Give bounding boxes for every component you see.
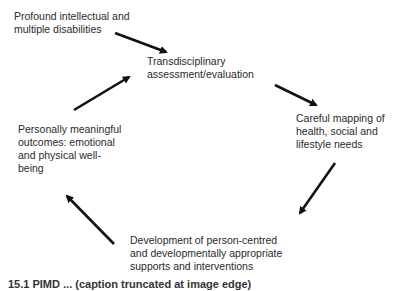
node-mapping-line-3: lifestyle needs bbox=[296, 138, 385, 151]
node-mapping-line-1: Careful mapping of bbox=[296, 112, 385, 125]
node-outcomes-line-4: being bbox=[18, 162, 121, 175]
node-mapping-line-2: health, social and bbox=[296, 125, 385, 138]
arrow-mapping-to-development bbox=[300, 163, 335, 213]
node-start: Profound intellectual and multiple disab… bbox=[14, 10, 130, 36]
node-start-line-2: multiple disabilities bbox=[14, 23, 130, 36]
node-assessment-line-1: Transdisciplinary bbox=[147, 55, 254, 68]
node-mapping: Careful mapping of health, social and li… bbox=[296, 112, 385, 151]
node-assessment: Transdisciplinary assessment/evaluation bbox=[147, 55, 254, 81]
node-start-line-1: Profound intellectual and bbox=[14, 10, 130, 23]
caption-text: 15.1 PIMD ... (caption truncated at imag… bbox=[8, 278, 251, 290]
node-development-line-3: supports and interventions bbox=[130, 260, 282, 273]
node-development-line-1: Development of person-centred bbox=[130, 234, 282, 247]
figure-caption-truncated: 15.1 PIMD ... (caption truncated at imag… bbox=[8, 278, 251, 291]
node-assessment-line-2: assessment/evaluation bbox=[147, 68, 254, 81]
node-outcomes-line-2: outcomes: emotional bbox=[18, 136, 121, 149]
arrow-assessment-to-mapping bbox=[275, 85, 316, 105]
node-outcomes-line-3: and physical well- bbox=[18, 149, 121, 162]
arrow-development-to-outcomes bbox=[67, 196, 114, 244]
node-outcomes: Personally meaningful outcomes: emotiona… bbox=[18, 123, 121, 175]
node-outcomes-line-1: Personally meaningful bbox=[18, 123, 121, 136]
arrow-outcomes-to-assessment bbox=[74, 77, 129, 110]
node-development: Development of person-centred and develo… bbox=[130, 234, 282, 273]
node-development-line-2: and developmentally appropriate bbox=[130, 247, 282, 260]
